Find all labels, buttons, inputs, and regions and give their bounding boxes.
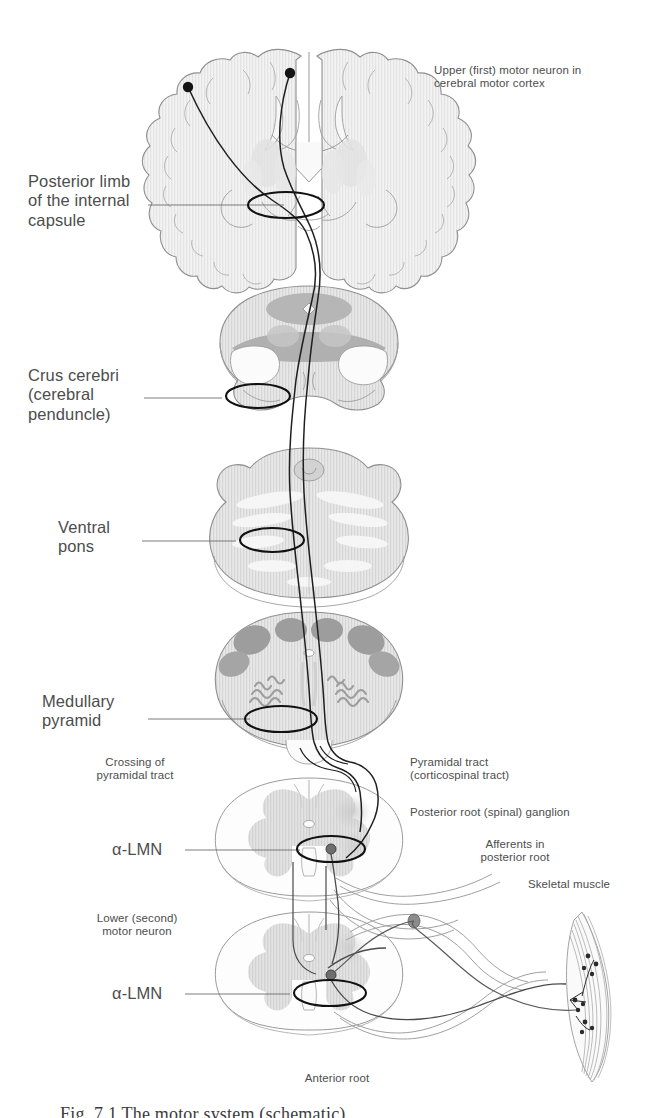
- umn-cell-body-lateral: [183, 82, 193, 92]
- figure-caption: Fig. 7.1 The motor system (schematic): [60, 1104, 620, 1118]
- section-pons: [210, 448, 409, 607]
- label-lower-motor-neuron: Lower (second) motor neuron: [62, 912, 212, 939]
- label-posterior-root-ganglion: Posterior root (spinal) ganglion: [410, 806, 660, 819]
- label-alpha-lmn-lower: α-LMN: [112, 984, 192, 1003]
- label-pyramidal-tract: Pyramidal tract (corticospinal tract): [410, 756, 610, 783]
- section-midbrain: [220, 286, 398, 410]
- label-alpha-lmn-upper: α-LMN: [112, 840, 192, 859]
- label-crus-cerebri: Crus cerebri (cerebral penduncle): [28, 366, 156, 424]
- label-internal-capsule: Posterior limb of the internal capsule: [28, 172, 158, 230]
- umn-cell-body-medial: [285, 68, 295, 78]
- label-afferents-posterior-root: Afferents in posterior root: [440, 838, 590, 865]
- skeletal-muscle: [567, 912, 611, 1082]
- label-medullary-pyramid: Medullary pyramid: [42, 692, 158, 731]
- label-upper-motor-neuron: Upper (first) motor neuron in cerebral m…: [434, 64, 664, 91]
- label-anterior-root: Anterior root: [262, 1072, 412, 1085]
- label-skeletal-muscle: Skeletal muscle: [528, 878, 668, 891]
- label-ventral-pons: Ventral pons: [58, 518, 148, 557]
- label-crossing-pyramidal-tract: Crossing of pyramidal tract: [60, 756, 210, 783]
- alpha-lmn-cell-upper: [326, 844, 336, 854]
- section-spinal-cord-lower: [215, 912, 402, 1035]
